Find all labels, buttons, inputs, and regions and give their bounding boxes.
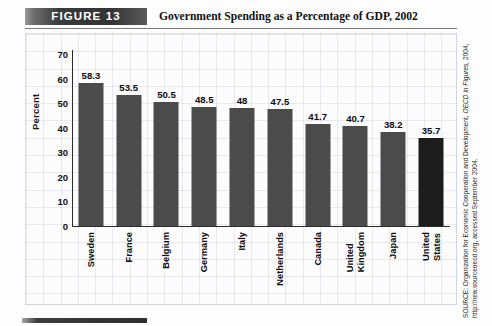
bar[interactable] [381,132,406,226]
x-axis-category-labels: SwedenFranceBelgiumGermanyItalyNetherlan… [72,230,450,304]
bar-group[interactable]: 41.7 [299,54,337,226]
bar-value-label: 48 [237,95,248,106]
x-axis-category-label: UnitedKingdom [345,232,366,272]
figure-number-badge: FIGURE 13 [25,8,147,25]
x-axis-category-label: Germany [199,232,210,272]
y-axis-tick-70: 70 [57,49,68,60]
bar-group[interactable]: 58.3 [72,54,110,226]
y-axis-tick-60: 60 [57,73,68,84]
y-axis-title: Percent [30,94,41,130]
x-axis-category-label: Netherlands [275,232,286,286]
x-axis-category: Sweden [72,230,110,304]
x-axis-category: UnitedStates [412,230,450,304]
x-axis-category-label: Canada [312,232,323,266]
bar-value-label: 38.2 [384,119,403,130]
header-divider [25,28,457,29]
bar-series: 58.353.550.548.54847.541.740.738.235.7 [72,54,450,226]
bar[interactable] [343,126,368,226]
y-axis-tick-20: 20 [57,171,68,182]
bar-group[interactable]: 53.5 [110,54,148,226]
y-axis-tick-30: 30 [57,147,68,158]
source-prefix: SOURCE: Organization for Economic Cooper… [462,113,469,318]
x-axis-category: Belgium [148,230,186,304]
x-axis-category-label: France [123,232,134,263]
bar-value-label: 50.5 [157,89,176,100]
x-axis-category: Italy [223,230,261,304]
bar[interactable] [230,108,255,226]
bar[interactable] [116,95,141,226]
x-axis-category-label: UnitedStates [421,232,442,261]
bar-value-label: 47.5 [271,96,290,107]
bar-group[interactable]: 35.7 [412,54,450,226]
x-axis-category-label: Japan [388,232,399,259]
bar-value-label: 35.7 [422,125,441,136]
y-axis-tick-50: 50 [57,98,68,109]
bar-value-label: 53.5 [119,82,138,93]
bar-group[interactable]: 50.5 [148,54,186,226]
x-axis-line [72,226,450,227]
bar-group[interactable]: 48.5 [185,54,223,226]
bar[interactable] [305,124,330,226]
bar-value-label: 58.3 [82,70,101,81]
bar[interactable] [267,109,292,226]
bar-value-label: 40.7 [346,113,365,124]
bar[interactable] [419,138,444,226]
x-axis-category: Germany [185,230,223,304]
bar-group[interactable]: 47.5 [261,54,299,226]
figure-title: Government Spending as a Percentage of G… [159,8,418,25]
y-axis-tick-labels: 706050403020100 [44,54,68,226]
x-axis-category-label: Belgium [161,232,172,269]
bar-group[interactable]: 48 [223,54,261,226]
y-axis-tick-40: 40 [57,122,68,133]
bar[interactable] [192,107,217,226]
y-axis-tick-10: 10 [57,196,68,207]
x-axis-category: France [110,230,148,304]
y-axis-tick-0: 0 [63,221,68,232]
bar-value-label: 41.7 [308,111,327,122]
x-axis-category: Netherlands [261,230,299,304]
x-axis-category: UnitedKingdom [337,230,375,304]
x-axis-category: Japan [374,230,412,304]
x-axis-category: Canada [299,230,337,304]
x-axis-category-label: Sweden [86,232,97,267]
bar-group[interactable]: 38.2 [374,54,412,226]
bar[interactable] [154,102,179,226]
bottom-accent-bar [22,318,147,323]
figure-header: FIGURE 13 Government Spending as a Perce… [25,6,457,30]
bar-value-label: 48.5 [195,94,214,105]
source-publication: OECD in Figures, [462,62,469,114]
source-note: SOURCE: Organization for Economic Cooper… [462,18,479,318]
x-axis-category-label: Italy [237,232,248,251]
bar[interactable] [78,83,103,226]
bar-group[interactable]: 40.7 [337,54,375,226]
figure-page: FIGURE 13 Government Spending as a Perce… [0,0,492,326]
